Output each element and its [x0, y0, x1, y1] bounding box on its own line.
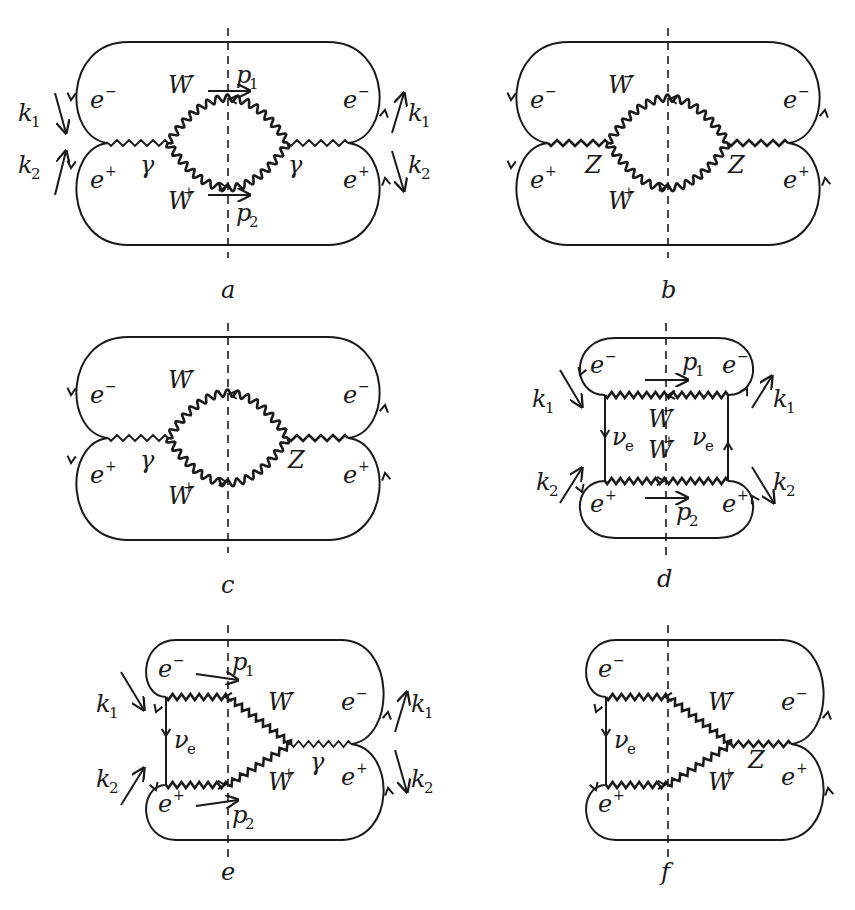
w-minus-line-left — [166, 694, 228, 700]
label-e-minus-right: e — [781, 688, 795, 716]
label-k2-right-sub: 2 — [786, 482, 796, 500]
exchange-boson — [291, 741, 351, 747]
label-k1-left-sub: 1 — [31, 113, 41, 131]
label-exchange-left: Z — [584, 151, 603, 179]
label-e-plus-right: e — [343, 166, 357, 194]
label-e-minus-right: e — [341, 688, 355, 716]
label-p1-sub: 1 — [695, 362, 705, 380]
label-e-minus-left: e — [530, 86, 544, 114]
label-w-plus-sup: + — [183, 184, 195, 200]
label-k2-left-sub: 2 — [549, 482, 559, 500]
label-k2-right-sub: 2 — [421, 165, 431, 183]
label-exchange-right: Z — [287, 446, 306, 474]
label-e-plus-left-sup: + — [173, 787, 185, 803]
momentum-arrow-k1-right — [752, 376, 772, 408]
fermion-arrow-icon — [67, 93, 75, 100]
label-e-minus-left: e — [158, 655, 172, 683]
w-minus-line-left — [606, 694, 668, 700]
label-e-minus-right-sup: − — [798, 83, 810, 99]
label-e-plus-right: e — [783, 166, 797, 194]
fermion-arrow-icon — [576, 484, 584, 492]
fermion-arrow-icon — [150, 782, 158, 790]
exchange-boson-left — [548, 140, 608, 146]
fermion-arrow-icon — [382, 178, 390, 186]
momentum-arrow-k1-left — [560, 370, 582, 407]
panel-f: e−e+e−e+W−W+νeZf — [586, 625, 833, 886]
label-e-plus-left: e — [90, 461, 104, 489]
label-e-plus-right-sup: + — [796, 760, 808, 776]
fermion-arrow-icon — [825, 788, 833, 796]
label-exchange-right: Z — [727, 151, 746, 179]
fermion-arrow-icon — [382, 473, 390, 481]
label-k1-right-sub: 1 — [424, 704, 434, 722]
label-p2-sub: 2 — [245, 815, 255, 833]
label-e-plus-left: e — [590, 490, 604, 518]
label-w-minus-sup: − — [283, 685, 295, 701]
caption: c — [221, 571, 234, 599]
label-w-plus-sup: + — [283, 765, 295, 781]
label-e-plus-left-sup: + — [613, 787, 625, 803]
label-exchange: Z — [747, 746, 766, 774]
label-e-plus-left-sup: + — [105, 458, 117, 474]
caption: d — [657, 565, 672, 593]
label-e-plus-right-sup: + — [358, 163, 370, 179]
label-e-minus-right: e — [783, 86, 797, 114]
fermion-arrow-icon — [154, 704, 162, 712]
label-k1-right-sub: 1 — [421, 113, 431, 131]
label-e-minus-right-sup: − — [737, 348, 749, 364]
label-e-minus-left-sup: − — [545, 83, 557, 99]
label-e-plus-right: e — [722, 490, 736, 518]
label-e-plus-left: e — [90, 166, 104, 194]
label-e-minus-right-sup: − — [356, 685, 368, 701]
label-e-minus-left: e — [598, 655, 612, 683]
label-p1-sub: 1 — [249, 75, 259, 93]
label-w-minus-sup: − — [623, 68, 635, 84]
label-e-minus-left-sup: − — [613, 652, 625, 668]
label-k2-left-sub: 2 — [31, 165, 41, 183]
label-nu-sub: e — [627, 740, 636, 758]
label-e-minus-right: e — [343, 381, 357, 409]
momentum-arrow-k2-left — [560, 468, 582, 503]
fermion-arrow-icon — [507, 161, 515, 168]
caption: f — [659, 858, 674, 886]
label-exchange-left: γ — [140, 151, 155, 179]
label-nu-right-sub: e — [705, 437, 714, 455]
exchange-boson-left — [108, 435, 168, 441]
caption: e — [221, 858, 235, 886]
label-p2-sub: 2 — [249, 213, 259, 231]
label-e-minus-left-sup: − — [105, 378, 117, 394]
label-k2-right-sub: 2 — [424, 779, 434, 797]
panel-c: e−e+e−e+W−W+γZc — [67, 323, 390, 599]
momentum-arrow-k1-right — [392, 93, 404, 133]
fermion-arrow-icon — [578, 367, 586, 375]
label-e-plus-left: e — [530, 166, 544, 194]
label-w-plus-sup: + — [663, 433, 675, 449]
label-w-minus-sup: − — [183, 68, 195, 84]
label-e-minus-left: e — [590, 351, 604, 379]
caption: b — [661, 276, 676, 304]
label-e-plus-right-sup: + — [358, 458, 370, 474]
label-k1-left-sub: 1 — [545, 399, 555, 417]
exchange-boson-left — [108, 140, 168, 146]
label-k2-left-sub: 2 — [109, 779, 119, 797]
label-e-minus-right: e — [722, 351, 736, 379]
fermion-arrow-icon — [383, 712, 391, 720]
label-e-minus-left: e — [90, 86, 104, 114]
label-w-minus-sup: − — [723, 685, 735, 701]
panel-a: e−e+e−e+W−W+γγp1p2k1k2k1k2a — [18, 28, 431, 304]
momentum-arrow-k2-left — [55, 151, 66, 195]
panel-e: e−e+e−e+W−W+νeγp1p2k1k2k1k2e — [96, 625, 434, 886]
exchange-boson-right — [288, 140, 348, 146]
label-e-minus-right-sup: − — [796, 685, 808, 701]
fermion-arrow-icon — [594, 704, 602, 712]
momentum-arrow-k1-right — [395, 692, 407, 732]
label-e-plus-left-sup: + — [605, 487, 617, 503]
exchange-boson-right — [288, 435, 348, 441]
label-e-plus-left-sup: + — [545, 163, 557, 179]
label-p2-sub: 2 — [689, 512, 699, 530]
label-w-minus-sup: − — [663, 402, 675, 418]
fermion-arrow-icon — [822, 178, 830, 186]
label-nu-left-sub: e — [625, 437, 634, 455]
label-e-plus-right-sup: + — [798, 163, 810, 179]
panel-b: e−e+e−e+W−W+ZZb — [507, 28, 830, 304]
